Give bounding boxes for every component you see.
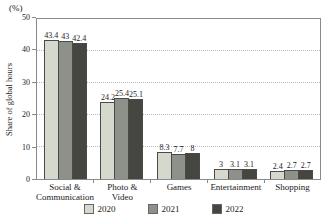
- value-label: 25.1: [129, 90, 143, 99]
- value-label: 8.3: [159, 143, 169, 152]
- value-label: 3.1: [244, 160, 254, 169]
- y-tick-label: 50: [10, 13, 30, 23]
- y-tick-label: 40: [10, 45, 30, 55]
- bar-2020: 2.4: [270, 171, 285, 179]
- y-tick-label: 30: [10, 78, 30, 88]
- value-label: 8: [190, 144, 194, 153]
- value-label: 3: [219, 160, 223, 169]
- legend-item: 2021: [148, 204, 180, 214]
- category-label-line: Shopping: [264, 183, 321, 193]
- y-tick-label: 0: [10, 175, 30, 185]
- bar-2021: 2.7: [284, 170, 299, 179]
- bar-chart: (%) Share of global hours 43.44342.424.2…: [0, 0, 327, 224]
- category-label: Photo &Video: [94, 183, 151, 203]
- bar-group: 24.225.425.1: [94, 19, 151, 179]
- y-tick-label: 20: [10, 110, 30, 120]
- legend-label: 2022: [226, 204, 244, 214]
- bar-2021: 25.4: [114, 98, 129, 179]
- y-axis-title: Share of global hours: [4, 19, 15, 181]
- y-axis-unit-label: (%): [9, 3, 23, 13]
- y-tick-mark: [32, 49, 36, 50]
- value-label: 25.4: [115, 89, 129, 98]
- y-tick-mark: [32, 179, 36, 180]
- bar-group: 33.13.1: [207, 19, 264, 179]
- value-label: 7.7: [173, 145, 183, 154]
- legend-swatch: [84, 204, 94, 214]
- bar-2022: 25.1: [128, 99, 143, 179]
- category-label-line: Entertainment: [208, 183, 265, 193]
- legend-item: 2022: [212, 204, 244, 214]
- legend-label: 2021: [162, 204, 180, 214]
- plot-area: 43.44342.424.225.425.18.37.7833.13.12.42…: [36, 18, 321, 180]
- bar-group: 8.37.78: [150, 19, 207, 179]
- category-labels: Social &CommunicationPhoto &VideoGamesEn…: [36, 183, 321, 203]
- value-label: 2.7: [287, 161, 297, 170]
- y-tick-mark: [32, 114, 36, 115]
- value-label: 43: [61, 32, 69, 41]
- bar-2020: 8.3: [157, 152, 172, 179]
- category-label: Entertainment: [208, 183, 265, 203]
- legend-swatch: [148, 204, 158, 214]
- bar-2022: 2.7: [298, 170, 313, 179]
- category-label-line: Video: [94, 193, 151, 203]
- bar-2021: 3.1: [228, 169, 243, 179]
- category-label: Social &Communication: [36, 183, 94, 203]
- bar-group: 2.42.72.7: [263, 19, 320, 179]
- bar-2020: 24.2: [100, 102, 115, 179]
- bar-2020: 43.4: [44, 40, 59, 179]
- legend-label: 2020: [98, 204, 116, 214]
- y-tick-label: 10: [10, 143, 30, 153]
- category-label-line: Communication: [36, 193, 94, 203]
- y-tick-mark: [32, 82, 36, 83]
- bar-2022: 8: [185, 153, 200, 179]
- y-tick-mark: [32, 147, 36, 148]
- bar-2021: 7.7: [171, 154, 186, 179]
- value-label: 3.1: [230, 160, 240, 169]
- bar-2022: 3.1: [242, 169, 257, 179]
- value-label: 2.4: [273, 162, 283, 171]
- bar-groups: 43.44342.424.225.425.18.37.7833.13.12.42…: [37, 19, 320, 179]
- bar-2022: 42.4: [72, 43, 87, 179]
- value-label: 42.4: [72, 34, 86, 43]
- y-tick-mark: [32, 17, 36, 18]
- category-label: Shopping: [264, 183, 321, 203]
- value-label: 2.7: [301, 161, 311, 170]
- bar-2021: 43: [58, 41, 73, 179]
- value-label: 24.2: [101, 93, 115, 102]
- category-label: Games: [151, 183, 208, 203]
- bar-2020: 3: [214, 169, 229, 179]
- legend: 2020 2021 2022: [0, 204, 327, 214]
- category-label-line: Games: [151, 183, 208, 193]
- value-label: 43.4: [44, 31, 58, 40]
- bar-group: 43.44342.4: [37, 19, 94, 179]
- legend-item: 2020: [84, 204, 116, 214]
- legend-swatch: [212, 204, 222, 214]
